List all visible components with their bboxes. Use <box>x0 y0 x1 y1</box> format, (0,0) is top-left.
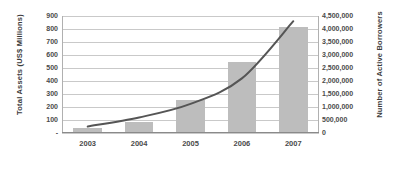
y-axis-right-tick-label: 0 <box>322 129 326 137</box>
x-axis-ticks: 20032004200520062007 <box>62 139 319 153</box>
y-axis-left-tick-label: 800 <box>46 25 58 33</box>
line-series-layer <box>62 16 319 133</box>
x-axis-tick-label: 2005 <box>182 139 199 148</box>
y-axis-left-tick-label: 100 <box>46 116 58 124</box>
y-axis-right-tick-label: 2,500,000 <box>322 64 353 72</box>
y-axis-right-tick-label: 1,000,000 <box>322 103 353 111</box>
y-axis-right-tick-label: 2,000,000 <box>322 77 353 85</box>
chart-figure: Total Assets (US$ Millions) Number of Ac… <box>0 0 398 170</box>
y-axis-right-tick-label: 3,500,000 <box>322 38 353 46</box>
gridline <box>62 133 319 134</box>
x-axis-tick-label: 2003 <box>79 139 96 148</box>
y-axis-right-tick-label: 3,000,000 <box>322 51 353 59</box>
line-path <box>88 21 294 126</box>
x-axis-tick-label: 2004 <box>131 139 148 148</box>
y-axis-left-tick-label: 700 <box>46 38 58 46</box>
y-axis-left-tick-label: 600 <box>46 51 58 59</box>
y-axis-right-tick-label: 4,500,000 <box>322 12 353 20</box>
y-axis-left-tick-label: 400 <box>46 77 58 85</box>
y-axis-left-title: Total Assets (US$ Millions) <box>15 5 24 125</box>
y-axis-left-tick-label: - <box>56 129 58 137</box>
y-axis-right-ticks: 4,500,0004,000,0003,500,0003,000,0002,50… <box>322 12 370 134</box>
y-axis-right-tick-label: 1,500,000 <box>322 90 353 98</box>
plot-area <box>62 16 319 133</box>
x-axis-tick-label: 2007 <box>285 139 302 148</box>
y-axis-left-ticks: 900800700600500400300200100- <box>28 12 58 134</box>
y-axis-left-tick-label: 500 <box>46 64 58 72</box>
y-axis-left-tick-label: 200 <box>46 103 58 111</box>
y-axis-left-tick-label: 900 <box>46 12 58 20</box>
x-axis-tick-label: 2006 <box>234 139 251 148</box>
y-axis-right-title: Number of Active Borrowers <box>375 5 384 125</box>
y-axis-right-tick-label: 4,000,000 <box>322 25 353 33</box>
y-axis-right-tick-label: 500,000 <box>322 116 347 124</box>
y-axis-left-tick-label: 300 <box>46 90 58 98</box>
x-axis-baseline <box>62 132 319 133</box>
